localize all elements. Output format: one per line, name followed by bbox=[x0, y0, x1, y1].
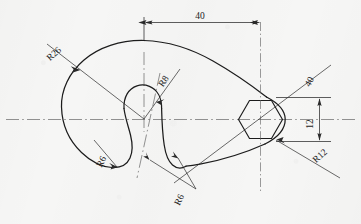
radius-leaders bbox=[47, 44, 340, 189]
notch-arc-r8 bbox=[124, 85, 162, 109]
label-dim-40-top: 40 bbox=[195, 11, 205, 21]
label-dim-r6-bottom: R6 bbox=[172, 192, 186, 207]
radius-arrowheads bbox=[71, 66, 285, 169]
label-dim-40-leader: 40 bbox=[303, 75, 316, 88]
arm-top-edge bbox=[144, 41, 267, 98]
part-outline bbox=[61, 40, 285, 167]
leader-line-r6-bottom-second bbox=[150, 160, 196, 189]
label-dim-r8: R8 bbox=[156, 74, 171, 89]
notch-right-flank bbox=[162, 109, 186, 168]
hook-body-profile bbox=[61, 40, 144, 167]
arrow-r6-bottom bbox=[171, 152, 179, 159]
label-dim-12: 12 bbox=[305, 119, 315, 129]
leader-line-r12 bbox=[276, 140, 340, 178]
leader-line-r6-bottom bbox=[178, 158, 196, 189]
label-dim-r26: R26 bbox=[45, 45, 64, 63]
arm-bottom-edge bbox=[186, 144, 265, 166]
centerlines bbox=[6, 52, 355, 178]
dimension-labels: 40 R26 R8 R6 R6 40 12 R12 bbox=[45, 11, 330, 207]
drawing-sheet: 40 R26 R8 R6 R6 40 12 R12 bbox=[0, 0, 361, 224]
arrow-r6-bottom-second bbox=[143, 152, 149, 160]
angled-centerline-tail bbox=[137, 73, 160, 178]
technical-drawing-canvas: 40 R26 R8 R6 R6 40 12 R12 bbox=[0, 0, 361, 224]
